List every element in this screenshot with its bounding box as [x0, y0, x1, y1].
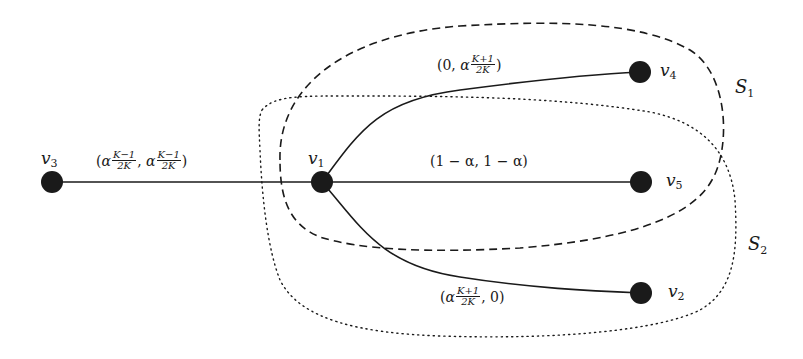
- label-v3: v3: [41, 148, 58, 170]
- label-set-s2: S2: [748, 233, 767, 257]
- label-v5-sub: 5: [676, 179, 683, 192]
- label-v3-name: v: [41, 148, 51, 168]
- set-s1-boundary: [280, 23, 724, 250]
- edge-label-text: (1 − α, 1 − α): [430, 153, 528, 169]
- alpha-symbol: α: [146, 153, 155, 169]
- label-v1-name: v: [308, 148, 318, 168]
- graph-diagram: v3 v1 v4 v5 v2 S1 S2 ( α K−12K , α K−12K…: [0, 0, 803, 359]
- label-s2-sub: 2: [760, 244, 767, 257]
- alpha-symbol: α: [445, 289, 454, 305]
- label-v2-name: v: [668, 281, 678, 301]
- label-v4-name: v: [660, 60, 670, 80]
- fraction: K−12K: [112, 150, 136, 171]
- alpha-symbol: α: [460, 57, 469, 73]
- label-v4: v4: [660, 60, 677, 82]
- label-v4-sub: 4: [670, 69, 677, 82]
- node-v3: [41, 171, 63, 193]
- label-v5-name: v: [666, 170, 676, 190]
- fraction: K+12K: [456, 286, 480, 307]
- label-v1-sub: 1: [318, 157, 325, 170]
- label-s1-sub: 1: [747, 87, 754, 100]
- edge-label-v1-v2: ( α K+12K , 0): [440, 286, 504, 307]
- alpha-symbol: α: [101, 153, 110, 169]
- paren-close: , 0): [481, 289, 504, 305]
- fraction-denominator: 2K: [116, 161, 132, 171]
- fraction: K−12K: [157, 150, 181, 171]
- label-v5: v5: [666, 170, 683, 192]
- fraction-denominator: 2K: [475, 65, 491, 75]
- node-v5: [630, 171, 652, 193]
- edge-label-v1-v5: (1 − α, 1 − α): [430, 153, 528, 169]
- label-v1: v1: [308, 148, 325, 170]
- fraction: K+12K: [471, 54, 495, 75]
- fraction-denominator: 2K: [460, 297, 476, 307]
- separator: ,: [137, 153, 146, 169]
- label-s1-name: S: [735, 76, 747, 97]
- node-v2: [630, 282, 652, 304]
- fraction-denominator: 2K: [161, 161, 177, 171]
- node-v1: [311, 171, 333, 193]
- label-set-s1: S1: [735, 76, 754, 100]
- label-v2-sub: 2: [678, 290, 685, 303]
- paren-close: ): [496, 57, 501, 73]
- paren-close: ): [182, 153, 187, 169]
- paren-open: (0,: [437, 57, 460, 73]
- edge-label-v1-v4: (0, α K+12K ): [437, 54, 501, 75]
- label-s2-name: S: [748, 233, 760, 254]
- edge-label-v3-v1: ( α K−12K , α K−12K ): [96, 150, 187, 171]
- node-v4: [629, 61, 651, 83]
- label-v3-sub: 3: [51, 157, 58, 170]
- edge-v1-v2: [322, 182, 641, 293]
- label-v2: v2: [668, 281, 685, 303]
